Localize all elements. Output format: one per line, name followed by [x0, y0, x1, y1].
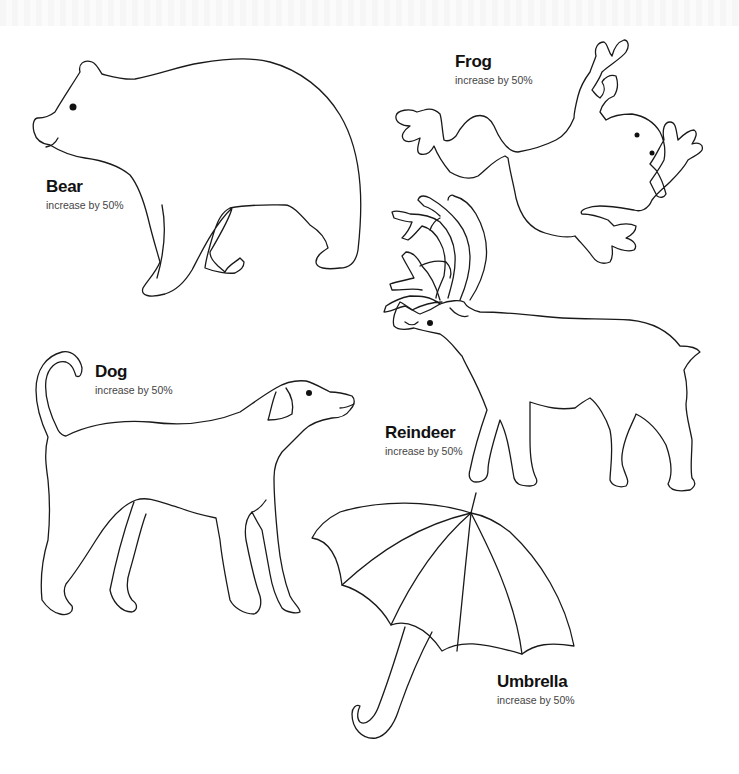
frog-outline: [396, 40, 702, 263]
dog-label: Dog increase by 50%: [95, 363, 173, 396]
frog-title: Frog: [455, 53, 533, 70]
umbrella-title: Umbrella: [497, 673, 575, 690]
reindeer-label: Reindeer increase by 50%: [385, 424, 463, 457]
umbrella-label: Umbrella increase by 50%: [497, 673, 575, 706]
dog-scale-note: increase by 50%: [95, 385, 173, 396]
dog-title: Dog: [95, 363, 173, 380]
frog-label: Frog increase by 50%: [455, 53, 533, 86]
frog-scale-note: increase by 50%: [455, 75, 533, 86]
reindeer-title: Reindeer: [385, 424, 463, 441]
dog-outline: [36, 352, 354, 615]
bear-scale-note: increase by 50%: [46, 200, 124, 211]
reindeer-scale-note: increase by 50%: [385, 446, 463, 457]
umbrella-scale-note: increase by 50%: [497, 695, 575, 706]
bear-title: Bear: [46, 178, 124, 195]
bear-label: Bear increase by 50%: [46, 178, 124, 211]
